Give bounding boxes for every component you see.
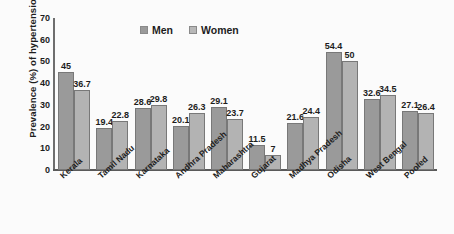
bar-value-label: 50 <box>345 50 355 60</box>
y-axis-tick-20: 20 <box>28 122 50 132</box>
bar-rect <box>58 72 74 170</box>
bar-value-label: 32.6 <box>363 88 381 98</box>
bar-chart: Prevalence (%) of hypertension 010203040… <box>0 0 454 234</box>
bar-women[interactable]: 7 <box>265 18 281 170</box>
y-axis-tick-40: 40 <box>28 78 50 88</box>
bar-value-label: 29.1 <box>210 96 228 106</box>
bar-rect <box>326 52 342 170</box>
bar-men[interactable]: 20.1 <box>173 18 189 170</box>
bar-women[interactable]: 50 <box>342 18 358 170</box>
bar-value-label: 27.1 <box>401 100 419 110</box>
y-axis-tick-60: 60 <box>28 35 50 45</box>
bar-value-label: 36.7 <box>73 79 91 89</box>
bar-value-label: 29.8 <box>150 94 168 104</box>
bar-rect <box>342 61 358 170</box>
bar-value-label: 45 <box>61 61 71 71</box>
y-axis-tick-70: 70 <box>28 13 50 23</box>
bar-value-label: 20.1 <box>172 115 190 125</box>
bar-value-label: 23.7 <box>226 108 244 118</box>
bar-value-label: 26.4 <box>417 102 435 112</box>
y-axis-tick-labels: 010203040506070 <box>28 12 50 170</box>
bar-women[interactable]: 26.4 <box>418 18 434 170</box>
bar-value-label: 19.4 <box>96 117 114 127</box>
bar-value-label: 26.3 <box>188 102 206 112</box>
bar-women[interactable]: 36.7 <box>74 18 90 170</box>
y-axis-tick-10: 10 <box>28 143 50 153</box>
x-axis-tick-labels: KeralaTamil NaduKarnatakaAndhra PradeshM… <box>55 173 437 233</box>
y-axis-tick-30: 30 <box>28 100 50 110</box>
bar-men[interactable]: 21.6 <box>287 18 303 170</box>
bar-value-label: 34.5 <box>379 84 397 94</box>
bar-value-label: 54.4 <box>325 41 343 51</box>
bar-group: 4536.7 <box>55 18 93 170</box>
y-axis-tick-0: 0 <box>28 165 50 175</box>
bar-value-label: 21.6 <box>287 112 305 122</box>
bar-men[interactable]: 32.6 <box>364 18 380 170</box>
bar-value-label: 28.6 <box>134 97 152 107</box>
bar-men[interactable]: 19.4 <box>96 18 112 170</box>
bar-value-label: 22.8 <box>112 110 130 120</box>
bar-value-label: 24.4 <box>303 106 321 116</box>
bar-men[interactable]: 28.6 <box>135 18 151 170</box>
y-axis-tick-50: 50 <box>28 56 50 66</box>
bar-men[interactable]: 45 <box>58 18 74 170</box>
